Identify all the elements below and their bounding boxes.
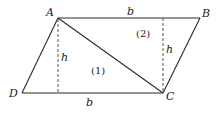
parallelogram-diagram: A B C D b b h h (1) (2) [0, 0, 221, 114]
label-height-right-h: h [166, 43, 173, 56]
region-label-1: (1) [91, 65, 105, 76]
vertex-label-C: C [166, 90, 175, 103]
vertex-label-B: B [201, 7, 210, 20]
label-bottom-base-b: b [86, 96, 93, 109]
label-top-base-b: b [127, 5, 134, 18]
vertex-label-D: D [8, 87, 18, 100]
label-height-left-h: h [61, 51, 68, 64]
region-label-2: (2) [136, 28, 150, 39]
edge-DA [22, 18, 58, 93]
vertex-label-A: A [45, 6, 54, 19]
